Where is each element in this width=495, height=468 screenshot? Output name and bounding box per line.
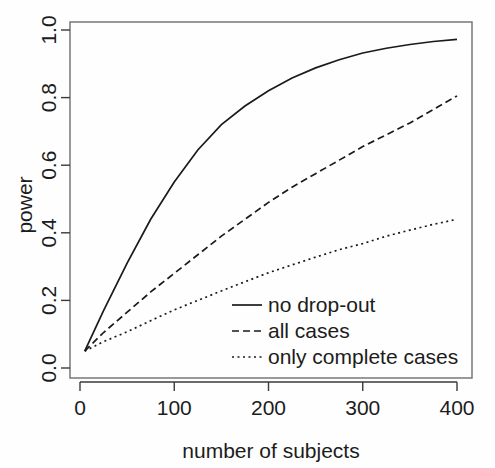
y-axis-ticks: 0.00.20.40.60.81.0: [37, 15, 70, 382]
x-tick-label: 200: [251, 396, 286, 419]
chart-legend: no drop-outall casesonly complete cases: [232, 293, 458, 368]
y-tick-label: 1.0: [37, 15, 60, 44]
plot-canvas: 0100200300400 0.00.20.40.60.81.0 number …: [0, 0, 495, 468]
y-tick-label: 0.2: [37, 286, 60, 315]
legend-label-no-drop-out: no drop-out: [268, 293, 376, 316]
y-tick-label: 0.4: [37, 218, 60, 248]
y-axis-title: power: [13, 176, 36, 233]
y-tick-label: 0.8: [37, 83, 60, 112]
power-curve-figure: 0100200300400 0.00.20.40.60.81.0 number …: [0, 0, 495, 468]
x-axis-title: number of subjects: [182, 439, 359, 462]
legend-label-all-cases: all cases: [268, 319, 350, 342]
x-tick-label: 100: [157, 396, 192, 419]
legend-label-only-complete-cases: only complete cases: [268, 345, 458, 368]
y-tick-label: 0.6: [37, 151, 60, 180]
x-tick-label: 400: [439, 396, 474, 419]
x-axis-ticks: 0100200300400: [74, 382, 474, 419]
x-tick-label: 300: [345, 396, 380, 419]
y-tick-label: 0.0: [37, 353, 60, 382]
x-tick-label: 0: [74, 396, 86, 419]
